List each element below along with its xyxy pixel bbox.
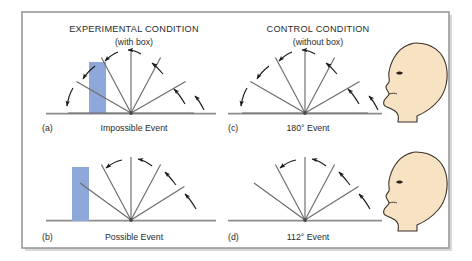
panel-b-caption: Possible Event [105,232,164,242]
heading-control-subtitle: (without box) [293,37,343,47]
figure-root: EXPERIMENTAL CONDITION (with box) CONTRO… [0,0,472,261]
heading-control-title: CONTROL CONDITION [267,24,370,34]
panel-b-pivot [129,218,133,222]
panel-d-pivot [303,218,307,222]
panel-a-caption: Impossible Event [101,123,169,133]
panel-c-caption: 180° Event [286,123,330,133]
panel-b-occluder-box [72,167,89,221]
drawbridge-experiment-figure: EXPERIMENTAL CONDITION (with box) CONTRO… [0,0,472,261]
panel-a-letter: (a) [42,123,53,133]
panel-d-caption: 112° Event [287,232,330,242]
heading-experimental-subtitle: (with box) [115,37,153,47]
panel-c-letter: (c) [228,123,238,133]
panel-a-pivot [129,111,133,115]
heading-experimental-title: EXPERIMENTAL CONDITION [69,24,199,34]
panel-b-letter: (b) [42,232,53,242]
panel-d-letter: (d) [228,232,239,242]
panel-c-pivot [303,111,307,115]
